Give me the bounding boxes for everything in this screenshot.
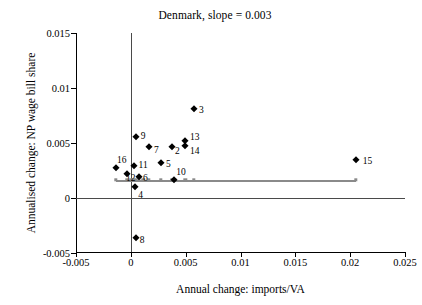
y-tick-0 [71,198,76,199]
y-axis-spine [76,33,77,253]
data-point-marker-8 [132,234,140,242]
data-point-label-11: 11 [139,161,148,171]
x-tick-label-0.02: 0.02 [341,257,359,268]
x-axis-title: Annual change: imports/VA [76,283,405,295]
fit-marker-13 [354,178,357,181]
data-point-label-12: 12 [126,174,136,184]
data-point-label-7: 7 [154,146,159,156]
data-point-marker-14 [181,142,189,150]
y-tick-0.015 [71,33,76,34]
x-tick-label-0.015: 0.015 [284,257,308,268]
data-point-label-3: 3 [199,106,204,116]
data-point-label-9: 9 [141,132,146,142]
x-tick-label-0.01: 0.01 [231,257,249,268]
chart-title: Denmark, slope = 0.003 [0,9,422,21]
horizontal-zero-reference-line [76,198,405,199]
data-point-label-8: 8 [140,236,145,246]
y-tick-0.005 [71,143,76,144]
fit-marker-0 [114,178,117,181]
fit-marker-8 [159,178,162,181]
data-point-label-4: 4 [138,191,143,201]
data-point-label-2: 2 [175,147,180,157]
data-point-label-5: 5 [166,160,171,170]
x-tick-label-0.025: 0.025 [393,257,417,268]
y-axis-tick-labels: 0.0150.010.0050-0.005 [0,33,70,253]
y-tick-label-0.015: 0.015 [46,28,70,39]
y-tick-label-0: 0 [65,193,70,204]
x-tick-label-0: 0 [128,257,133,268]
data-point-marker-5 [157,160,165,168]
data-point-label-13: 13 [190,133,200,143]
y-tick-0.01 [71,88,76,89]
data-point-label-14: 14 [190,147,200,157]
fitted-regression-line [116,180,356,182]
y-tick-label-0.01: 0.01 [52,83,70,94]
data-point-label-16: 16 [117,156,127,166]
data-point-label-10: 10 [176,168,186,178]
fit-marker-11 [183,178,186,181]
data-point-marker-15 [352,156,360,164]
x-tick-label--0.005: -0.005 [62,257,89,268]
data-point-marker-3 [190,105,198,113]
data-point-marker-9 [132,133,140,141]
fit-marker-12 [192,178,195,181]
data-point-marker-7 [145,143,153,151]
vertical-zero-reference-line [131,33,132,253]
y-tick-label-0.005: 0.005 [46,138,70,149]
plot-area: -0.00500.0050.010.0150.020.025 234567891… [76,33,405,253]
data-point-label-15: 15 [363,157,373,167]
data-point-label-6: 6 [143,174,148,184]
x-tick-label-0.005: 0.005 [174,257,198,268]
scatter-plot-figure: Denmark, slope = 0.003 Annualised change… [0,0,422,305]
